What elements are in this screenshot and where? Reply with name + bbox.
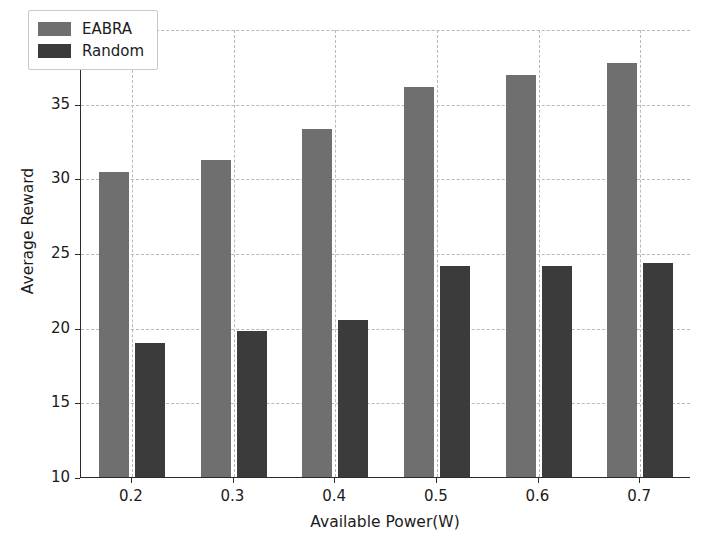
chart-legend: EABRA Random	[28, 10, 158, 70]
x-tick-mark	[233, 478, 234, 483]
bar-eabra-0.2	[99, 172, 129, 477]
legend-item-random: Random	[38, 40, 144, 62]
bars-layer	[81, 30, 690, 477]
legend-swatch-icon	[38, 44, 71, 58]
bar-random-0.3	[237, 331, 267, 477]
y-tick-mark	[75, 403, 80, 404]
x-tick-label: 0.6	[508, 489, 568, 504]
bar-eabra-0.3	[201, 160, 231, 477]
y-tick-mark	[75, 329, 80, 330]
y-tick-mark	[75, 478, 80, 479]
x-tick-label: 0.4	[304, 489, 364, 504]
x-axis-label: Available Power(W)	[80, 513, 690, 531]
legend-label: Random	[82, 42, 144, 60]
bar-random-0.4	[338, 320, 368, 477]
x-tick-mark	[639, 478, 640, 483]
bar-eabra-0.6	[506, 75, 536, 477]
x-tick-label: 0.2	[101, 489, 161, 504]
legend-item-eabra: EABRA	[38, 18, 144, 40]
y-tick-mark	[75, 105, 80, 106]
x-tick-mark	[334, 478, 335, 483]
bar-random-0.2	[135, 343, 165, 477]
bar-eabra-0.7	[607, 63, 637, 477]
y-tick-mark	[75, 179, 80, 180]
bar-random-0.7	[643, 263, 673, 477]
y-axis-label: Average Reward	[19, 71, 37, 391]
x-tick-label: 0.5	[406, 489, 466, 504]
legend-swatch-icon	[38, 22, 71, 36]
x-tick-mark	[538, 478, 539, 483]
bar-random-0.5	[440, 266, 470, 477]
x-tick-mark	[436, 478, 437, 483]
x-tick-mark	[131, 478, 132, 483]
bar-chart-figure: 101520253035400.20.30.40.50.60.7 Average…	[0, 0, 712, 544]
y-tick-mark	[75, 254, 80, 255]
y-tick-label: 10	[30, 470, 70, 485]
bar-eabra-0.5	[404, 87, 434, 477]
bar-random-0.6	[542, 266, 572, 477]
x-tick-label: 0.7	[609, 489, 669, 504]
bar-eabra-0.4	[302, 129, 332, 477]
legend-label: EABRA	[82, 20, 132, 38]
x-tick-label: 0.3	[203, 489, 263, 504]
y-tick-label: 15	[30, 395, 70, 410]
plot-area	[80, 30, 690, 478]
